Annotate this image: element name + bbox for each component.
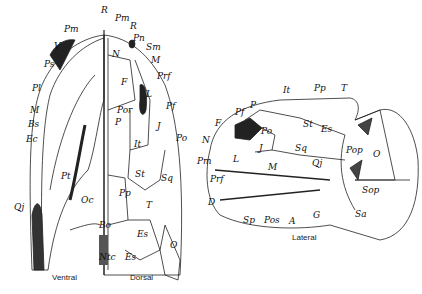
label-L: L [146,90,152,99]
label-V: V [54,42,61,51]
label-Po: Po [261,127,272,136]
caption-ventral: Ventral [52,274,77,282]
label-T: T [341,84,347,93]
label-Bs: Bs [28,120,39,129]
label-Es: Es [137,230,148,239]
label-Sq: Sq [295,144,307,153]
pterygoid-outline [50,75,95,190]
label-O: O [373,150,380,159]
label-Por: Por [117,106,132,115]
label-St: St [303,120,313,129]
label-N: N [202,136,210,145]
label-Pt: Pt [61,172,71,181]
label-Pf: Pf [166,102,175,111]
label-Es: Es [125,253,136,262]
label-Ps: Ps [44,60,54,69]
label-Qj: Qj [312,159,322,168]
label-Sp: Sp [243,216,255,225]
label-Pp: Pp [314,84,326,93]
label-M: M [30,106,39,115]
label-T: T [146,201,152,210]
label-Qj: Qj [14,203,24,212]
label-Bo: Bo [99,221,111,230]
label-Pm: Pm [64,25,79,34]
label-O: O [170,241,177,250]
label-P: P [250,101,256,110]
label-Pm: Pm [115,14,130,23]
label-Po: Po [176,134,187,143]
label-N: N [112,50,120,59]
label-J: J [259,144,263,153]
label-Pn: Pn [133,34,145,43]
label-G: G [313,211,320,220]
label-Sm: Sm [146,43,161,52]
label-Sop: Sop [362,186,379,195]
label-Pm: Pm [197,157,212,166]
label-Es: Es [321,125,332,134]
caption-lateral: Lateral [292,234,316,242]
label-F: F [121,78,127,87]
caption-dorsal: Dorsal [130,274,153,282]
label-A: A [289,217,296,226]
label-R: R [130,22,137,31]
label-P: P [115,118,121,127]
ventral-inner-line [41,38,104,265]
label-J: J [157,122,161,131]
label-R: R [101,6,108,15]
label-Sa: Sa [355,210,367,219]
label-It: It [134,140,141,149]
label-Pop: Pop [346,146,363,155]
label-D: D [208,198,215,207]
label-It: It [283,86,290,95]
label-Pl: Pl [32,84,41,93]
label-Ec: Ec [26,135,38,144]
label-Prf: Prf [210,175,224,184]
label-Ntc: Ntc [99,253,116,262]
label-Sq: Sq [161,174,173,183]
label-Pos: Pos [264,216,280,225]
label-St: St [135,170,145,179]
label-Pf: Pf [235,108,244,117]
label-Oc: Oc [81,196,93,205]
occipital-outline [70,224,100,230]
label-Prf: Prf [157,72,171,81]
label-F: F [215,119,221,128]
label-L: L [233,155,239,164]
label-M: M [268,163,277,172]
quadratojugal-dark [32,204,44,270]
label-Pp: Pp [119,189,131,198]
label-M: M [151,56,160,65]
